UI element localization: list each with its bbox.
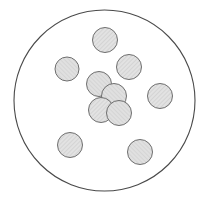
- diagram-canvas: [0, 0, 213, 202]
- packed-circles-layer: [55, 28, 173, 165]
- packed-circle: [117, 55, 142, 80]
- packed-circle: [55, 57, 79, 81]
- packed-circle: [58, 133, 83, 158]
- packed-circle: [148, 84, 173, 109]
- circle-packing-svg: [0, 0, 213, 202]
- packed-circle: [107, 101, 132, 126]
- packed-circle: [93, 28, 118, 53]
- packed-circle: [128, 140, 153, 165]
